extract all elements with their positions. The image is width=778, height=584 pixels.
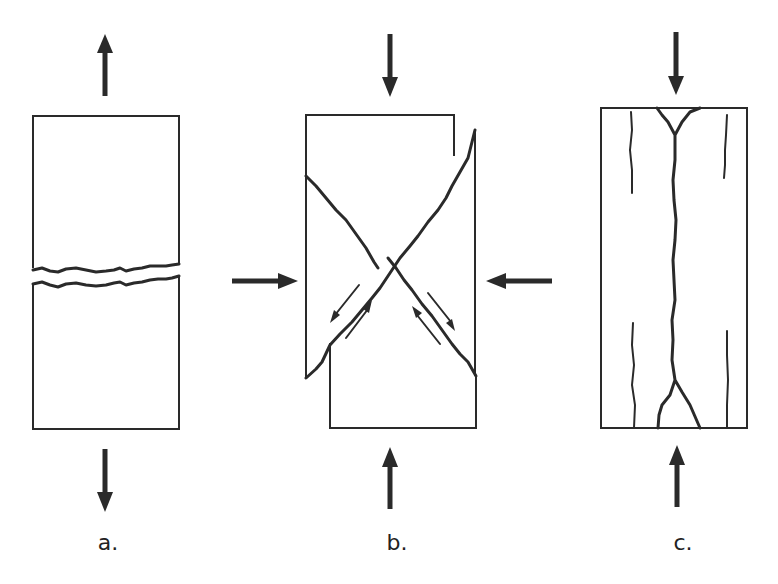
panel-a <box>33 34 179 512</box>
panel-a-label: a. <box>98 530 118 555</box>
compression-arrow-down-c-icon <box>668 32 684 95</box>
panel-c <box>601 32 747 507</box>
shear-sense-arrow-left-up-icon <box>346 300 372 338</box>
tension-arrow-up-icon <box>97 34 113 96</box>
compression-arrow-down-icon <box>382 34 398 97</box>
shear-fracture-nw-se <box>306 176 378 268</box>
panel-b <box>232 34 552 509</box>
specimen-a-upper <box>33 116 179 268</box>
specimen-a-lower <box>33 276 179 429</box>
tension-arrow-down-icon <box>97 449 113 512</box>
axial-split-lower-right <box>727 331 728 428</box>
panel-c-label: c. <box>673 530 692 555</box>
tension-fracture-upper <box>33 264 179 272</box>
compression-arrow-up-icon <box>382 447 398 509</box>
shear-sense-arrow-right-up-icon <box>412 306 440 344</box>
specimen-b-upper-block <box>306 115 454 176</box>
specimen-b-lower-block <box>330 343 476 428</box>
tension-fracture-lower <box>33 276 179 287</box>
axial-split-lower-left <box>632 323 635 428</box>
shear-fracture-nw-se-lower <box>388 258 476 376</box>
shear-sense-arrow-right-down-icon <box>428 293 455 331</box>
compression-arrow-up-c-icon <box>669 445 685 507</box>
compression-arrow-right-icon <box>232 273 298 289</box>
panel-b-label: b. <box>387 530 408 555</box>
compression-arrow-left-icon <box>486 273 552 289</box>
axial-split-central <box>657 108 700 428</box>
axial-split-upper-right <box>724 115 727 178</box>
fracture-modes-figure: a. b. c. <box>0 0 778 584</box>
axial-split-upper-left <box>630 112 632 193</box>
